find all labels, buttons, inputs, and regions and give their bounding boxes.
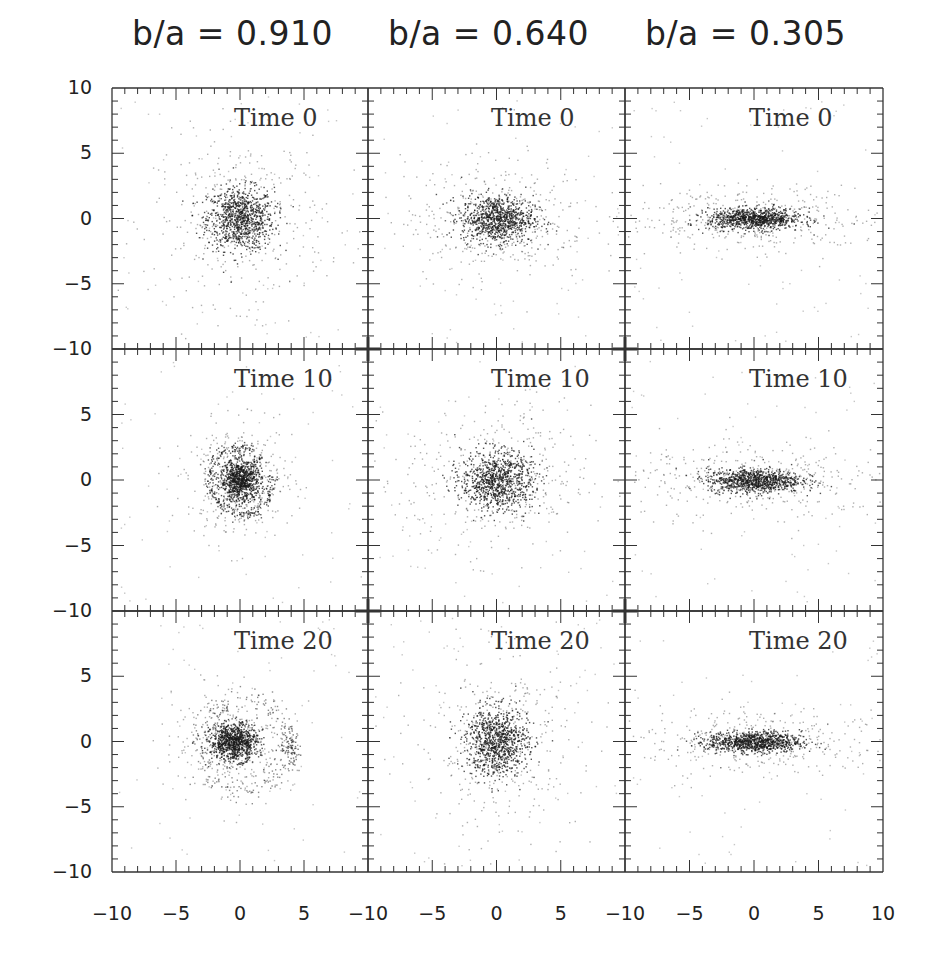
scatter-grid — [0, 0, 950, 970]
figure: b/a = 0.910 b/a = 0.640 b/a = 0.305 1050… — [0, 0, 950, 970]
